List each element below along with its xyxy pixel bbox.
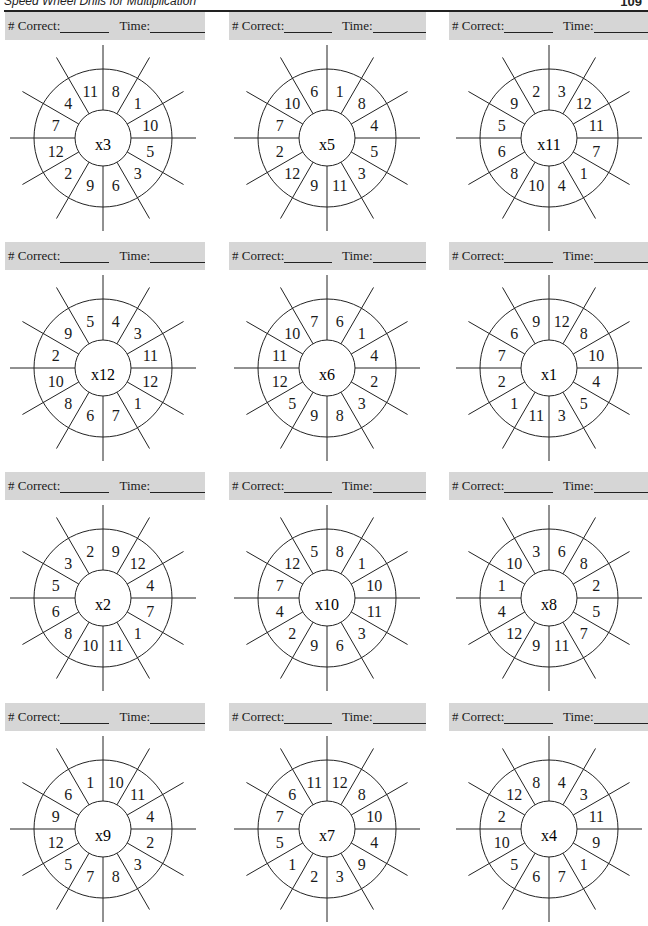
wheel-diagram: 682571191241103x8 xyxy=(0,472,648,702)
factor-number: 1 xyxy=(549,366,557,383)
wheel-number: 7 xyxy=(498,347,506,364)
wheel-number: 9 xyxy=(592,834,600,851)
wheel-diagram: 128104531112769x1 xyxy=(0,242,648,472)
wheel-number: 7 xyxy=(580,625,588,642)
wheel-number: 6 xyxy=(558,543,566,560)
wheel-number: 7 xyxy=(592,143,600,160)
factor-number: 4 xyxy=(549,827,557,844)
multiplier-label: x1 xyxy=(541,366,557,383)
multiplier-label: x11 xyxy=(537,136,560,153)
wheel-number: 2 xyxy=(498,808,506,825)
wheel-number: 5 xyxy=(592,603,600,620)
wheel-number: 8 xyxy=(580,555,588,572)
page-number: 109 xyxy=(620,0,642,9)
factor-number: 8 xyxy=(549,596,557,613)
wheel-number: 6 xyxy=(532,868,540,885)
wheel-number: 2 xyxy=(592,577,600,594)
wheel-number: 4 xyxy=(558,774,566,791)
wheel-number: 8 xyxy=(580,325,588,342)
wheel-number: 4 xyxy=(558,177,566,194)
wheel-number: 9 xyxy=(510,95,518,112)
wheel-number: 11 xyxy=(589,117,604,134)
factor-number: 11 xyxy=(545,136,560,153)
wheel-diagram: 431191765102128x4 xyxy=(0,703,648,926)
speed-wheel-drill: # Correct:Time:128104531112769x1 xyxy=(0,242,648,472)
spoke-line xyxy=(503,287,536,343)
wheel-number: 10 xyxy=(588,347,604,364)
multiplier-label: x4 xyxy=(541,827,557,844)
wheel-number: 1 xyxy=(580,165,588,182)
wheel-diagram: 312117141086592x11 xyxy=(0,12,648,242)
wheel-number: 1 xyxy=(498,577,506,594)
spoke-line xyxy=(503,853,536,909)
wheel-number: 12 xyxy=(554,313,570,330)
wheel-number: 12 xyxy=(576,95,592,112)
wheel-number: 5 xyxy=(580,395,588,412)
wheel-number: 5 xyxy=(510,856,518,873)
running-head: Speed Wheel Drills for Multiplication 10… xyxy=(0,0,648,10)
times-sign: x xyxy=(541,596,549,613)
times-sign: x xyxy=(541,827,549,844)
wheel-number: 11 xyxy=(589,808,604,825)
wheel-number: 3 xyxy=(532,543,540,560)
wheel-number: 1 xyxy=(580,856,588,873)
wheel-number: 11 xyxy=(554,637,569,654)
wheel-number: 9 xyxy=(532,637,540,654)
speed-wheel-drill: # Correct:Time:312117141086592x11 xyxy=(0,12,648,242)
wheel-number: 3 xyxy=(558,407,566,424)
wheel-number: 7 xyxy=(558,868,566,885)
wheel-number: 2 xyxy=(498,373,506,390)
wheel-number: 8 xyxy=(532,774,540,791)
wheel-number: 3 xyxy=(580,786,588,803)
times-sign: x xyxy=(537,136,545,153)
wheel-number: 11 xyxy=(529,407,544,424)
wheel-number: 1 xyxy=(510,395,518,412)
wheel-number: 4 xyxy=(498,603,506,620)
wheel-number: 12 xyxy=(506,786,522,803)
speed-wheel-drill: # Correct:Time:431191765102128x4 xyxy=(0,703,648,926)
multiplier-label: x8 xyxy=(541,596,557,613)
spoke-line xyxy=(503,57,536,113)
wheel-number: 10 xyxy=(506,555,522,572)
wheel-number: 10 xyxy=(494,834,510,851)
wheel-number: 2 xyxy=(532,83,540,100)
wheel-number: 12 xyxy=(506,625,522,642)
wheel-number: 8 xyxy=(510,165,518,182)
wheel-number: 9 xyxy=(532,313,540,330)
wheel-number: 5 xyxy=(498,117,506,134)
wheel-number: 4 xyxy=(592,373,600,390)
wheel-number: 3 xyxy=(558,83,566,100)
wheel-number: 10 xyxy=(528,177,544,194)
wheel-number: 6 xyxy=(510,325,518,342)
wheel-number: 6 xyxy=(498,143,506,160)
speed-wheel-drill: # Correct:Time:682571191241103x8 xyxy=(0,472,648,702)
book-title: Speed Wheel Drills for Multiplication xyxy=(4,0,196,8)
times-sign: x xyxy=(541,366,549,383)
